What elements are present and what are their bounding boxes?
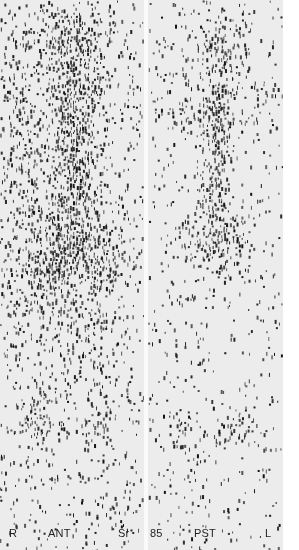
anterior-view-label: ANT [48, 527, 71, 539]
right-margin [283, 0, 299, 550]
isotope-label-sr: Sr [118, 527, 129, 539]
right-side-label: R [9, 527, 17, 539]
posterior-scan-image [148, 0, 283, 550]
left-side-label: L [265, 527, 271, 539]
anterior-scan-panel [0, 0, 144, 550]
posterior-view-label: PST [194, 527, 216, 539]
posterior-scan-panel [148, 0, 283, 550]
anterior-scan-image [0, 0, 144, 550]
isotope-label-85: 85 [150, 527, 163, 539]
